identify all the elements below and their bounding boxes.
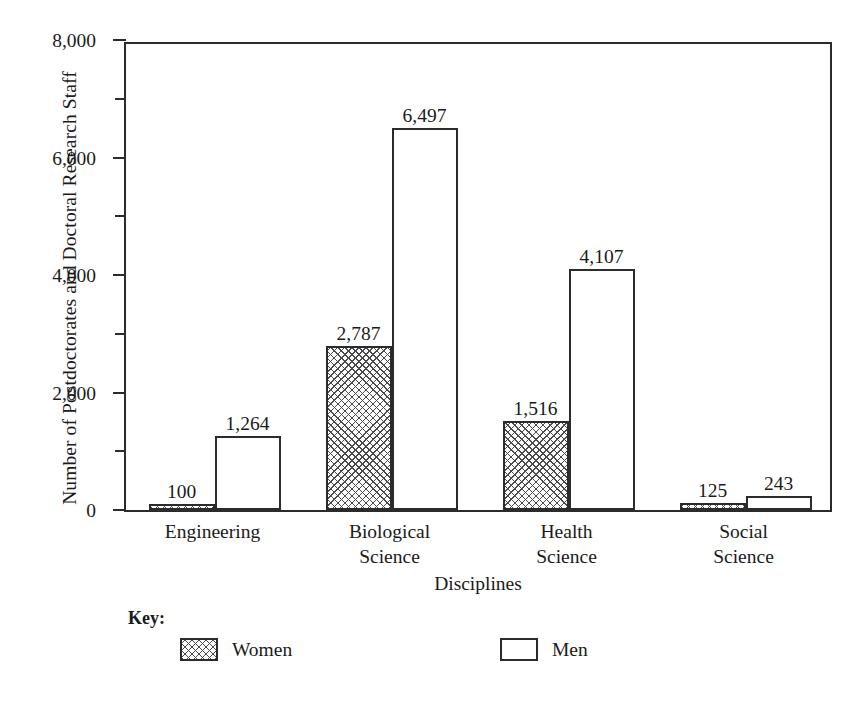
x-category-label: HealthScience (478, 519, 655, 569)
y-tick-label: 8,000 (52, 30, 96, 52)
bar-value-label: 6,497 (403, 105, 447, 127)
cross-hatch-swatch (180, 638, 218, 661)
legend-item-women: Women (180, 638, 292, 661)
bar-men: 243 (746, 496, 812, 510)
bar-value-label: 4,107 (580, 246, 624, 268)
y-tick-label: 2,000 (52, 383, 96, 405)
bar-women: 125 (680, 503, 746, 510)
x-category-label: BiologicalScience (301, 519, 478, 569)
legend-label-men: Men (552, 639, 588, 661)
x-category-label: Engineering (124, 519, 301, 544)
y-tick-minor (115, 215, 126, 217)
bar-men: 4,107 (569, 269, 635, 510)
y-axis-title: Number of Postdoctorates and Doctoral Re… (59, 28, 81, 548)
bar-chart-figure: Number of Postdoctorates and Doctoral Re… (0, 0, 865, 704)
bar-women: 100 (149, 504, 215, 510)
y-tick-label: 6,000 (52, 148, 96, 170)
legend-label-women: Women (232, 639, 292, 661)
x-category-label: SocialScience (655, 519, 832, 569)
bar-women: 1,516 (503, 421, 569, 510)
y-tick-major: 6,000 (113, 157, 126, 159)
y-tick-minor (115, 450, 126, 452)
y-tick-minor (115, 98, 126, 100)
chart-legend: Key: Women Men (128, 608, 688, 678)
bar-value-label: 243 (764, 473, 793, 495)
bar-men: 6,497 (392, 128, 458, 510)
bar-men: 1,264 (215, 436, 281, 510)
bar-value-label: 2,787 (337, 323, 381, 345)
y-tick-minor (115, 333, 126, 335)
bar-value-label: 125 (698, 480, 727, 502)
y-tick-label: 0 (86, 500, 96, 522)
legend-title: Key: (128, 608, 165, 629)
y-tick-major: 2,000 (113, 392, 126, 394)
y-tick-major: 8,000 (113, 39, 126, 41)
legend-item-men: Men (500, 638, 588, 661)
plot-area: 02,0004,0006,0008,0001001,2642,7876,4971… (124, 42, 832, 512)
bar-value-label: 100 (167, 481, 196, 503)
y-tick-major: 4,000 (113, 274, 126, 276)
bar-value-label: 1,264 (226, 413, 270, 435)
y-tick-label: 4,000 (52, 265, 96, 287)
bar-value-label: 1,516 (514, 398, 558, 420)
y-tick-major: 0 (113, 509, 126, 511)
white-swatch (500, 638, 538, 661)
x-axis-title: Disciplines (124, 573, 832, 595)
bar-women: 2,787 (326, 346, 392, 510)
